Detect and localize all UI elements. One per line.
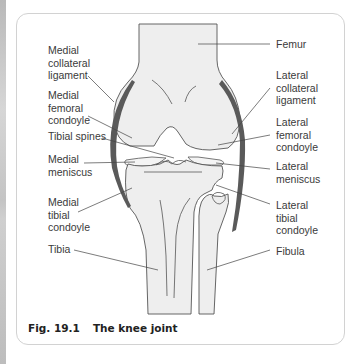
figure-number: Fig. 19.1 <box>28 322 80 334</box>
femur-bone <box>114 24 240 150</box>
label-medial-collateral-ligament: Medial collateral ligament <box>48 44 90 82</box>
label-lateral-meniscus: Lateral meniscus <box>276 160 320 185</box>
fibula-bone <box>199 194 229 314</box>
leader-tibia <box>74 250 158 270</box>
label-lateral-collateral-ligament: Lateral collateral ligament <box>276 69 318 107</box>
label-medial-meniscus: Medial meniscus <box>48 153 92 178</box>
figure-title: The knee joint <box>93 322 178 334</box>
label-lateral-tibial-condoyle: Lateral tibial condoyle <box>276 199 318 237</box>
label-fibula: Fibula <box>276 245 305 258</box>
label-femur: Femur <box>276 38 306 51</box>
label-lateral-femoral-condoyle: Lateral femoral condoyle <box>276 116 318 154</box>
label-medial-femoral-condoyle: Medial femoral condoyle <box>48 89 90 127</box>
figure-caption: Fig. 19.1 The knee joint <box>28 322 178 334</box>
label-tibia: Tibia <box>48 243 70 256</box>
label-tibial-spines: Tibial spines <box>48 130 106 143</box>
leader-medial-collateral-ligament <box>88 76 114 102</box>
label-medial-tibial-condoyle: Medial tibial condoyle <box>48 196 90 234</box>
